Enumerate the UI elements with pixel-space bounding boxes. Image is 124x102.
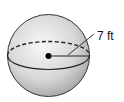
- radius-label: 7 ft: [97, 29, 114, 43]
- sphere-diagram: 7 ft: [0, 0, 124, 102]
